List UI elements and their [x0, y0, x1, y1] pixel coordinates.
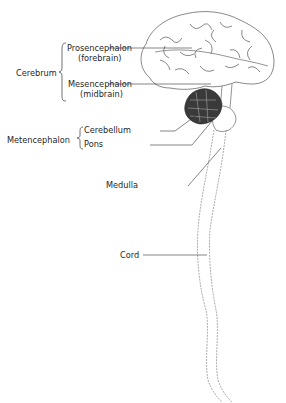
label-metencephalon: Metencephalon — [7, 136, 70, 145]
label-medulla: Medulla — [106, 181, 138, 190]
label-pons: Pons — [84, 140, 103, 149]
label-prosencephalon: Prosencephalon — [67, 44, 132, 53]
label-cerebrum: Cerebrum — [16, 69, 57, 78]
label-cerebellum: Cerebellum — [84, 126, 131, 135]
brain-spinal-cord-illustration — [0, 0, 286, 403]
cerebrum-drawing — [141, 12, 274, 90]
label-forebrain: (forebrain) — [78, 54, 122, 63]
cerebellum-drawing — [185, 89, 222, 124]
brace-metencephalon — [77, 126, 84, 150]
brace-cerebrum — [59, 42, 67, 102]
label-mesencephalon: Mesencephalon — [68, 80, 132, 89]
spinal-cord-drawing — [197, 130, 232, 402]
label-cord: Cord — [120, 251, 139, 260]
label-midbrain: (midbrain) — [80, 90, 123, 99]
